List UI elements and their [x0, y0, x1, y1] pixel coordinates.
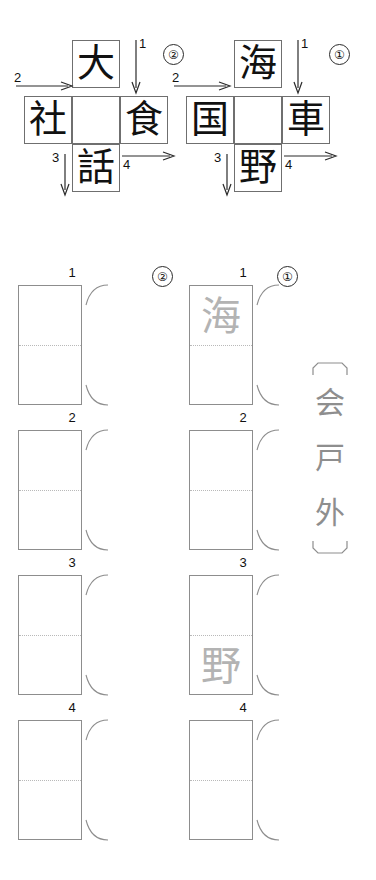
- answer-bracket: [84, 718, 110, 846]
- puzzle-marker-two: ②: [163, 44, 184, 65]
- answer-box-bottom-half[interactable]: [19, 490, 81, 550]
- arrow-4-number: 4: [123, 157, 130, 172]
- arrow-4-number: 4: [285, 157, 292, 172]
- answer-bracket: [255, 428, 281, 556]
- arrow-1-number: 1: [301, 36, 308, 51]
- puzzle-marker-one: ①: [329, 44, 350, 65]
- answer-box-bottom-half[interactable]: [190, 345, 252, 405]
- puzzle-cell-center-blank[interactable]: [72, 96, 120, 144]
- kanji-glyph: 話: [77, 148, 115, 186]
- puzzle-cell-right: 車: [282, 96, 330, 144]
- word-bank-char: 会: [311, 388, 349, 418]
- answer-box-number: 3: [233, 555, 253, 570]
- word-bank-open-bracket: [310, 360, 350, 380]
- kanji-glyph: 野: [239, 148, 277, 186]
- puzzle-cell-top: 大: [72, 40, 120, 88]
- kanji-glyph: 国: [191, 100, 229, 138]
- kanji-glyph: 海: [201, 296, 241, 336]
- answer-box[interactable]: [18, 720, 82, 840]
- answer-box[interactable]: [18, 575, 82, 695]
- puzzle-cell-right: 食: [120, 96, 168, 144]
- answer-box-bottom-half[interactable]: [190, 780, 252, 840]
- puzzle-cell-bottom: 話: [72, 144, 120, 192]
- arrow-2-number: 2: [14, 70, 21, 85]
- answer-bracket: [255, 283, 281, 411]
- answer-bracket: [84, 283, 110, 411]
- word-bank-close-bracket: [310, 540, 350, 560]
- kanji-glyph: 社: [29, 100, 67, 138]
- worksheet-sheet: 大 社 食 話 1: [0, 0, 376, 880]
- answer-box-bottom-half[interactable]: 野: [190, 635, 252, 695]
- answer-box[interactable]: 海: [189, 285, 253, 405]
- answer-box-number: 1: [62, 265, 82, 280]
- answer-box-top-half[interactable]: 海: [190, 286, 252, 345]
- answer-box-top-half[interactable]: [19, 721, 81, 780]
- word-bank-char: 外: [311, 498, 349, 528]
- answer-box-number: 1: [233, 265, 253, 280]
- answer-marker-two: ②: [152, 266, 173, 287]
- answer-box[interactable]: [18, 285, 82, 405]
- puzzle-marker-label: ②: [168, 49, 179, 61]
- puzzle-marker-label: ①: [334, 49, 345, 61]
- arrow-3-number: 3: [52, 150, 59, 165]
- answer-marker-label: ①: [282, 271, 293, 283]
- answer-box-number: 3: [62, 555, 82, 570]
- answer-box-top-half[interactable]: [19, 286, 81, 345]
- arrow-3-number: 3: [214, 150, 221, 165]
- kanji-glyph: 野: [201, 646, 241, 686]
- kanji-glyph: 食: [125, 100, 163, 138]
- answer-bracket: [255, 573, 281, 701]
- arrow-3-down: [58, 152, 78, 204]
- word-bank-char: 戸: [311, 443, 349, 473]
- arrow-3-down: [220, 152, 240, 204]
- arrow-2-right: [172, 77, 234, 99]
- answer-marker-label: ②: [157, 271, 168, 283]
- answer-box-number: 4: [233, 700, 253, 715]
- answer-box-number: 4: [62, 700, 82, 715]
- arrow-1-number: 1: [139, 36, 146, 51]
- answer-box-number: 2: [233, 410, 253, 425]
- answer-box[interactable]: 野: [189, 575, 253, 695]
- answer-box-top-half[interactable]: [190, 576, 252, 635]
- arrow-2-right: [14, 77, 76, 99]
- kanji-glyph: 海: [239, 44, 277, 82]
- answer-box-bottom-half[interactable]: [19, 635, 81, 695]
- answer-box-bottom-half[interactable]: [190, 490, 252, 550]
- answer-box-top-half[interactable]: [190, 721, 252, 780]
- answer-box-top-half[interactable]: [19, 431, 81, 490]
- arrow-2-number: 2: [172, 70, 179, 85]
- answer-box-bottom-half[interactable]: [19, 345, 81, 405]
- puzzle-cell-top: 海: [234, 40, 282, 88]
- answer-box-top-half[interactable]: [190, 431, 252, 490]
- answer-box[interactable]: [18, 430, 82, 550]
- answer-box-bottom-half[interactable]: [19, 780, 81, 840]
- answer-bracket: [84, 573, 110, 701]
- answer-bracket: [84, 428, 110, 556]
- kanji-glyph: 車: [287, 100, 325, 138]
- puzzle-cell-bottom: 野: [234, 144, 282, 192]
- puzzle-cell-left: 国: [186, 96, 234, 144]
- answer-box[interactable]: [189, 430, 253, 550]
- kanji-glyph: 大: [77, 44, 115, 82]
- answer-bracket: [255, 718, 281, 846]
- answer-box-top-half[interactable]: [19, 576, 81, 635]
- puzzle-cell-center-blank[interactable]: [234, 96, 282, 144]
- answer-box[interactable]: [189, 720, 253, 840]
- puzzle-cell-left: 社: [24, 96, 72, 144]
- answer-box-number: 2: [62, 410, 82, 425]
